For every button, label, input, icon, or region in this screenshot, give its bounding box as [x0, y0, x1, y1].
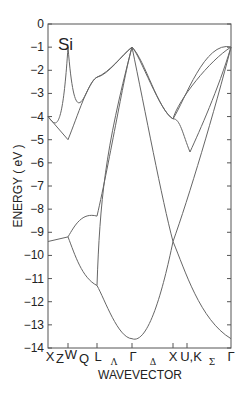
kpoint-label: Γ: [129, 349, 136, 364]
y-tick-label: −9: [30, 225, 44, 239]
y-tick-label: −3: [30, 86, 44, 100]
kpoint-label: Δ: [150, 357, 157, 367]
band-curves: [48, 47, 231, 340]
material-label: Si: [58, 35, 73, 54]
y-tick-label: −7: [30, 179, 44, 193]
y-tick-label: −13: [24, 318, 45, 332]
y-tick-label: −4: [30, 110, 44, 124]
kpoint-label: X: [169, 349, 178, 364]
y-tick-label: −6: [30, 156, 44, 170]
kpoint-label: Λ: [110, 357, 118, 367]
band-line: [68, 47, 231, 241]
kpoint-label: Z: [56, 351, 64, 366]
plot-frame: [48, 24, 231, 348]
kpoint-labels: XZWQLΛΓΔXU,KΣΓ: [46, 347, 235, 367]
y-tick-label: −2: [30, 63, 44, 77]
x-axis-ticks: [68, 343, 187, 348]
kpoint-label: W: [65, 347, 78, 362]
y-tick-label: −8: [30, 202, 44, 216]
x-axis-title: WAVEVECTOR: [98, 368, 182, 382]
band-structure-chart: 0−1−2−3−4−5−6−7−8−9−10−11−12−13−14 Si EN…: [0, 0, 245, 399]
kpoint-label: Σ: [209, 357, 215, 367]
y-axis-ticks-right: [227, 24, 231, 348]
band-line: [48, 237, 231, 339]
y-tick-label: 0: [37, 17, 44, 31]
band-line: [97, 47, 132, 285]
y-tick-label: −12: [24, 295, 45, 309]
y-tick-label: −5: [30, 133, 44, 147]
y-tick-label: −11: [25, 272, 45, 286]
y-axis-title: ENERGY ( eV ): [11, 144, 25, 227]
y-tick-label: −1: [30, 40, 44, 54]
kpoint-label: X: [46, 349, 55, 364]
y-tick-label: −14: [24, 341, 45, 355]
y-tick-label: −10: [24, 248, 45, 262]
kpoint-label: L: [94, 349, 101, 364]
kpoint-label: Q: [79, 351, 89, 366]
kpoint-label: U,K: [180, 349, 202, 364]
kpoint-label: Γ: [227, 349, 234, 364]
band-line: [173, 47, 231, 119]
